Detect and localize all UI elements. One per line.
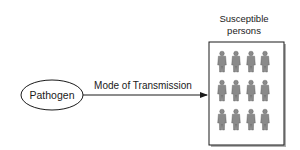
pathogen-label: Pathogen bbox=[30, 89, 75, 101]
transmission-edge: Mode of Transmission bbox=[83, 80, 207, 95]
edge-label: Mode of Transmission bbox=[94, 80, 192, 91]
target-title-line1: Susceptible bbox=[219, 13, 268, 24]
susceptible-persons-box bbox=[209, 42, 286, 147]
pathogen-node: Pathogen bbox=[21, 80, 83, 110]
transmission-diagram: Pathogen Mode of Transmission Susceptibl… bbox=[0, 0, 300, 150]
target-title-line2: persons bbox=[227, 25, 261, 36]
